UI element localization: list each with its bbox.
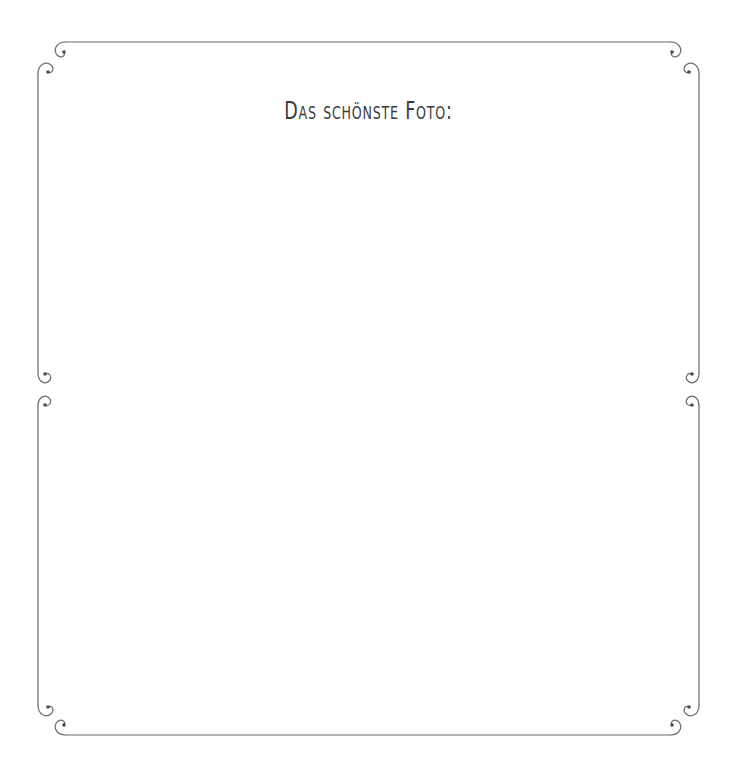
- lower-photo-frame: [38, 396, 699, 735]
- upper-photo-frame: [38, 42, 699, 383]
- page-title: Das schönste Foto:: [81, 96, 656, 125]
